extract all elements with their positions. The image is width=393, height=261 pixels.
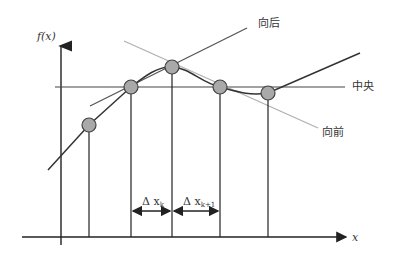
- data-point-5: [261, 86, 275, 100]
- y-axis-label: f(x): [36, 30, 56, 43]
- delta-k1-label: Δ xk+1: [183, 195, 215, 209]
- central-label: 中央: [352, 80, 374, 93]
- backward-label: 向后: [258, 16, 280, 30]
- data-point-3: [165, 60, 179, 74]
- forward-label: 向前: [322, 125, 344, 139]
- data-point-2: [124, 80, 138, 94]
- data-point-4: [213, 80, 227, 94]
- delta-k-label: Δ xk: [142, 195, 165, 209]
- data-point-1: [82, 118, 96, 132]
- x-axis-label: x: [352, 231, 359, 244]
- function-curve: [48, 53, 360, 170]
- finite-difference-diagram: f(x) x 向后 中央 向前 Δ xk Δ xk+1: [0, 0, 393, 261]
